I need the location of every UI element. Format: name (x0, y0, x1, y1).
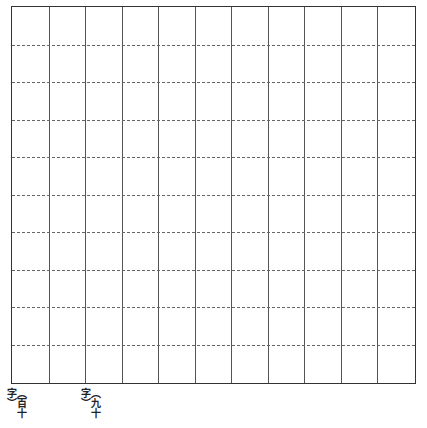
marker-110-chars: （百十字） (5, 388, 25, 428)
row-guide (12, 345, 415, 346)
writing-grid (11, 6, 416, 384)
row-guide (12, 45, 415, 46)
row-guide (12, 195, 415, 196)
row-guide (12, 270, 415, 271)
marker-90-chars: （九十字） (79, 388, 99, 428)
row-guide (12, 232, 415, 233)
row-guide (12, 120, 415, 121)
row-guide (12, 307, 415, 308)
row-guide (12, 157, 415, 158)
row-guide (12, 82, 415, 83)
